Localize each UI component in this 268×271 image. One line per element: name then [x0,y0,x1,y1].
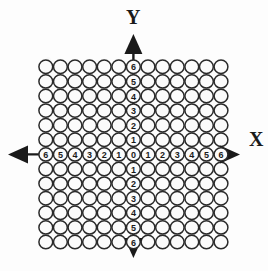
lattice-circle [200,60,214,73]
lattice-circle [156,206,170,219]
lattice-circle [141,221,155,234]
lattice-circle [39,177,53,190]
y-tick-label: 1 [131,165,136,175]
lattice-circle [170,60,184,73]
lattice-circle [97,75,111,88]
lattice-circle [185,162,199,175]
lattice-circle [156,221,170,234]
lattice-circle [141,60,155,73]
lattice-circle [141,133,155,146]
lattice-circle [185,104,199,117]
y-tick-label: 6 [131,62,136,72]
lattice-circle [214,75,228,88]
lattice-circle [214,119,228,132]
lattice-circle [156,104,170,117]
lattice-circle [39,192,53,205]
lattice-circle [156,75,170,88]
lattice-circle [83,89,97,102]
lattice-circle [112,162,126,175]
lattice-circle [54,235,68,248]
lattice-circle [97,89,111,102]
y-tick-label: 5 [131,223,136,233]
lattice-circle [156,133,170,146]
lattice-circle [39,206,53,219]
lattice-circle [156,192,170,205]
lattice-circle [39,60,53,73]
lattice-circle [39,235,53,248]
lattice-circle [170,75,184,88]
lattice-circle [83,75,97,88]
lattice-circle [214,104,228,117]
lattice-circle [170,177,184,190]
y-axis-label: Y [126,6,141,28]
lattice-circle [97,119,111,132]
lattice-circle [185,89,199,102]
coordinate-lattice-figure: 6543211234566543211234560 X Y [0,0,268,271]
lattice-circle [185,206,199,219]
lattice-circle [214,177,228,190]
lattice-circle [54,162,68,175]
lattice-circle [185,119,199,132]
lattice-circle [141,177,155,190]
lattice-circle [68,177,82,190]
lattice-circle [112,104,126,117]
lattice-circle [68,104,82,117]
lattice-circle [156,177,170,190]
x-tick-label: 6 [43,150,48,160]
lattice-circle [54,192,68,205]
lattice-circle [112,177,126,190]
lattice-circle [39,221,53,234]
lattice-circle [97,206,111,219]
lattice-circle [97,162,111,175]
lattice-circle [112,206,126,219]
lattice-circle [68,192,82,205]
y-tick-label: 2 [131,179,136,189]
lattice-circle [68,60,82,73]
lattice-circle [214,235,228,248]
lattice-circle [83,60,97,73]
x-tick-label: 3 [175,150,180,160]
lattice-circle [97,221,111,234]
lattice-circle [39,133,53,146]
y-tick-label: 1 [131,135,136,145]
lattice-circle [170,192,184,205]
lattice-circle [54,133,68,146]
lattice-circle [214,60,228,73]
lattice-circle [185,177,199,190]
x-axis-left-arrowhead [8,145,28,163]
lattice-circle [170,104,184,117]
lattice-circle [68,133,82,146]
y-tick-label: 3 [131,194,136,204]
lattice-circle [112,119,126,132]
lattice-circle [214,192,228,205]
lattice-circle [83,206,97,219]
lattice-circle [97,133,111,146]
lattice-circle [185,133,199,146]
lattice-circle [141,89,155,102]
lattice-circle [54,119,68,132]
lattice-circle [170,162,184,175]
lattice-circle [54,75,68,88]
lattice-circle [83,119,97,132]
lattice-circle [83,221,97,234]
figure-canvas: 6543211234566543211234560 X Y [0,0,268,271]
lattice-circle [68,89,82,102]
y-tick-label: 4 [131,92,136,102]
origin-tick-label: 0 [131,150,136,160]
lattice-circle [141,206,155,219]
lattice-circle [39,119,53,132]
lattice-circle [200,89,214,102]
lattice-circle [214,133,228,146]
lattice-circle [39,162,53,175]
lattice-circle [97,177,111,190]
lattice-circle [200,104,214,117]
lattice-circle [83,133,97,146]
lattice-circle [83,104,97,117]
lattice-circle [170,235,184,248]
lattice-circle [200,119,214,132]
lattice-circle [200,192,214,205]
lattice-circle [112,75,126,88]
lattice-circle [185,192,199,205]
lattice-circle [54,177,68,190]
lattice-circle [97,192,111,205]
